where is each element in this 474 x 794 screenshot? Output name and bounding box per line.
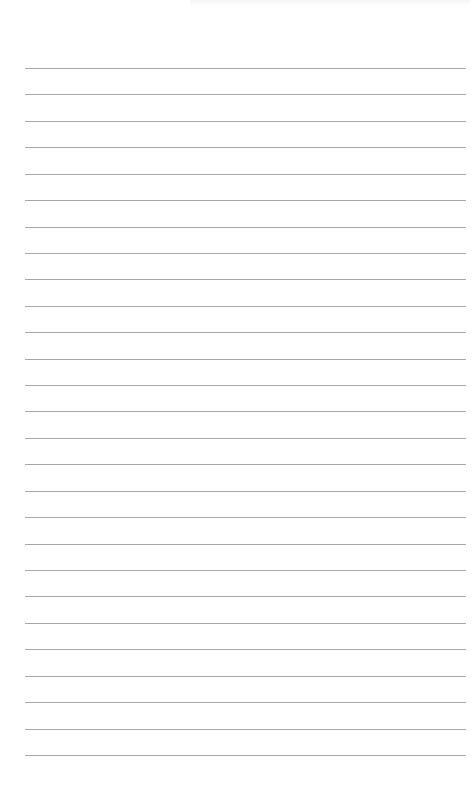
ruled-line: [25, 306, 466, 307]
ruled-line: [25, 385, 466, 386]
top-edge-shadow: [190, 0, 470, 6]
ruled-line: [25, 464, 466, 465]
ruled-line: [25, 147, 466, 148]
ruled-line: [25, 544, 466, 545]
ruled-line: [25, 570, 466, 571]
ruled-line: [25, 200, 466, 201]
ruled-line: [25, 491, 466, 492]
ruled-line: [25, 359, 466, 360]
ruled-line: [25, 411, 466, 412]
ruled-line: [25, 227, 466, 228]
ruled-line: [25, 517, 466, 518]
ruled-line: [25, 253, 466, 254]
ruled-line: [25, 279, 466, 280]
ruled-line: [25, 121, 466, 122]
ruled-line: [25, 94, 466, 95]
lined-paper-page: [0, 0, 474, 794]
ruled-line: [25, 729, 466, 730]
ruled-line: [25, 438, 466, 439]
ruled-line: [25, 68, 466, 69]
ruled-line: [25, 623, 466, 624]
ruled-line: [25, 332, 466, 333]
ruled-line: [25, 676, 466, 677]
ruled-line: [25, 596, 466, 597]
ruled-line: [25, 649, 466, 650]
ruled-line: [25, 755, 466, 756]
ruled-line: [25, 702, 466, 703]
ruled-line: [25, 174, 466, 175]
